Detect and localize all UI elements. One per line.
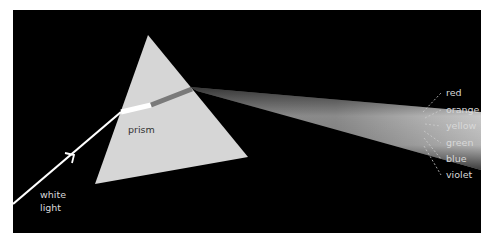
light-label: light (40, 202, 61, 213)
white-label: white (40, 189, 66, 200)
label-yellow: yellow (446, 120, 477, 131)
label-red: red (446, 87, 462, 98)
prism-label: prism (128, 124, 155, 135)
prism-diagram: prism white light red orange yellow gree… (0, 0, 495, 243)
label-orange: orange (446, 104, 480, 115)
label-blue: blue (446, 153, 467, 164)
label-green: green (446, 137, 473, 148)
prism-shape (95, 35, 248, 184)
label-violet: violet (446, 169, 473, 180)
